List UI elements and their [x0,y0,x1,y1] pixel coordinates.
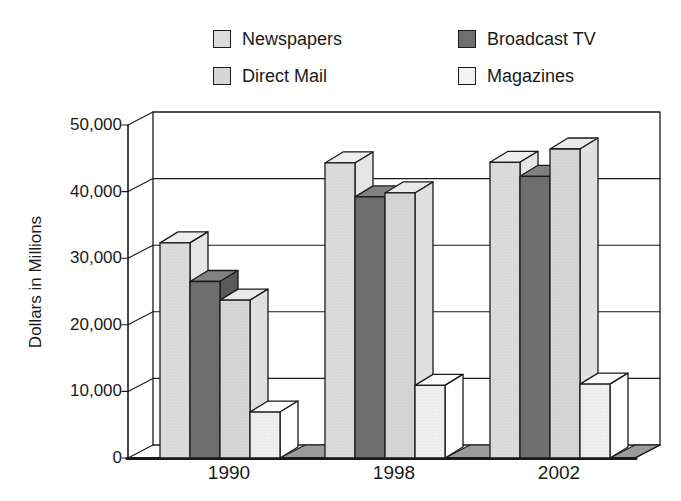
bar-texture [325,163,355,458]
bar-1990-magazines [250,401,298,458]
bar-texture [580,384,610,458]
bar-texture [490,162,520,458]
y-tick-label: 20,000 [0,315,122,335]
bar-texture [190,282,220,458]
bar-texture [385,193,415,458]
bar-1998-magazines [415,374,463,458]
y-tick-label: 10,000 [0,381,122,401]
x-axis-label-1998: 1998 [349,462,439,484]
y-tick-connector [128,378,153,391]
y-tick-label: 0 [0,448,122,468]
y-tick-connector [128,112,153,125]
bar-texture [550,149,580,458]
y-tick-connector [128,445,153,458]
bar-texture [220,300,250,458]
y-tick-label: 50,000 [0,115,122,135]
figure: Newspapers Broadcast TV Direct Mail Maga… [0,0,681,501]
bar-texture [355,197,385,458]
y-tick-connector [128,312,153,325]
x-axis-label-1990: 1990 [184,462,274,484]
bar-texture [415,385,445,458]
bar-side-face [445,374,463,458]
bar-2002-magazines [580,373,628,458]
y-tick-connector [128,245,153,258]
y-tick-label: 40,000 [0,182,122,202]
y-tick-label: 30,000 [0,248,122,268]
bar-texture [250,412,280,458]
x-axis-label-2002: 2002 [514,462,604,484]
bar-texture [520,176,550,458]
bar-texture [160,243,190,458]
y-tick-connector [128,179,153,192]
bar-side-face [610,373,628,458]
